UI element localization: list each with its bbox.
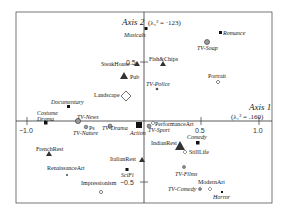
point-renaissance-art: [66, 174, 68, 176]
axis-1-title: Axis 1: [248, 102, 271, 112]
point-tv-soap: [205, 40, 210, 45]
point-label: TV-Soap: [197, 45, 218, 51]
point-tv-police: [156, 88, 159, 91]
point-ps: [84, 125, 88, 129]
axis-2-title: Axis 2: [121, 17, 145, 27]
axis-2-eigenvalue: (λ₂² = ·123): [148, 19, 182, 27]
point-label: RenaissanceArt: [47, 165, 85, 171]
x-tick-label: 0.5: [195, 127, 205, 134]
point-label: TV-Nature: [73, 130, 98, 136]
y-tick-label: −0.5: [120, 179, 134, 186]
point-modern-art: [208, 187, 212, 191]
point-label: TV-Police: [146, 81, 170, 87]
point-label: Pub: [130, 74, 139, 80]
point-musicals: [145, 27, 148, 30]
point-label: Impressionism: [81, 180, 117, 186]
point-label: Portrait: [208, 73, 226, 79]
point-label: PerformanceArt: [155, 121, 194, 127]
point-pub: [120, 72, 128, 79]
point-label: StillLife: [189, 149, 209, 155]
point-label: ModernArt: [198, 179, 225, 185]
point-label: ItalianRest: [110, 156, 136, 162]
point-label: SciFi: [121, 172, 134, 178]
point-portrait: [216, 80, 220, 84]
point-action: [136, 122, 142, 128]
point-scifi: [126, 168, 129, 171]
point-label: Landscape: [94, 92, 120, 98]
point-label: Drama: [36, 116, 54, 122]
point-tv-films: [183, 166, 186, 169]
point-label: TV-Comedy: [168, 186, 197, 192]
point-impressionism: [99, 190, 102, 193]
point-label: SteakHouse: [101, 61, 130, 67]
point-tv-comedy: [199, 188, 202, 191]
point-label: Horror: [212, 194, 231, 200]
axis-1-eigenvalue: (λ₁² = .160): [231, 113, 264, 121]
point-label: Romance: [222, 30, 246, 36]
point-label: TV-Sport: [148, 127, 170, 133]
point-label: Documentary: [50, 99, 84, 105]
point-still-life: [183, 150, 187, 154]
point-label: Comedy: [187, 134, 207, 140]
point-label: IndianRest: [151, 140, 177, 146]
point-comedy: [196, 141, 200, 145]
point-horror: [221, 191, 223, 193]
point-label: Action: [129, 130, 146, 136]
point-landscape: [121, 91, 131, 101]
correspondence-analysis-plot: −1.0 0.5 1.0 0.5 −0.5 Axis 2 (λ₂² = ·123…: [0, 0, 286, 216]
x-tick-label: −1.0: [19, 127, 33, 134]
point-label: TV-Films: [175, 171, 198, 177]
point-label: FrenchRest: [36, 146, 64, 152]
point-label: Fish&Chips: [149, 56, 179, 62]
x-tick-label: 1.0: [253, 127, 263, 134]
point-documentary: [67, 105, 70, 108]
point-label: TV-News: [77, 114, 99, 120]
point-label: Musicals: [123, 32, 146, 38]
point-romance: [219, 31, 222, 34]
point-label: TV-Drama: [102, 125, 128, 131]
